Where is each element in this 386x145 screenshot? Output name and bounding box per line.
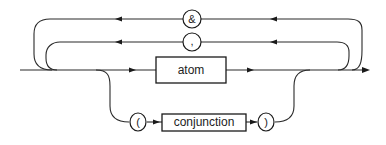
branch-down-left (96, 70, 129, 122)
ampersand-terminal: & (183, 10, 201, 28)
syntax-diagram: & , atom ( conjunction ) (0, 0, 386, 145)
comma-label: , (190, 35, 193, 47)
open-paren-terminal: ( (130, 113, 146, 131)
close-paren-label: ) (264, 116, 268, 128)
arrow-icon (250, 120, 257, 125)
exit-arrow-icon (362, 67, 370, 73)
arrow-icon (115, 40, 122, 45)
arrow-icon (115, 17, 122, 22)
conjunction-nonterminal: conjunction (162, 114, 246, 131)
arrow-icon (129, 68, 136, 73)
atom-label: atom (178, 63, 205, 77)
atom-nonterminal: atom (156, 57, 226, 83)
ampersand-label: & (188, 13, 196, 25)
comma-terminal: , (183, 33, 201, 51)
arrow-icon (247, 68, 254, 73)
arrow-icon (270, 40, 277, 45)
arrow-icon (153, 120, 160, 125)
branch-up-right (275, 70, 310, 122)
open-paren-label: ( (136, 116, 140, 128)
arrow-icon (270, 17, 277, 22)
conjunction-label: conjunction (174, 115, 235, 129)
close-paren-terminal: ) (258, 113, 274, 131)
